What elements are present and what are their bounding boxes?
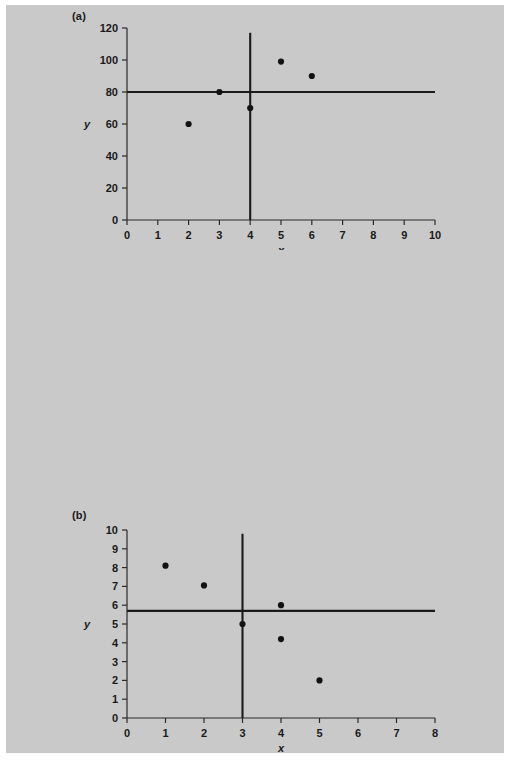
panel-c: (c) 024681012024681012xy	[0, 505, 507, 763]
data-point	[309, 73, 315, 79]
y-axis-title-a: y	[83, 118, 91, 130]
y-ticklabel-a-1: 20	[106, 182, 118, 194]
y-ticklabel-a-6: 120	[100, 22, 118, 34]
x-ticklabel-a-5: 5	[278, 229, 284, 241]
axis-spines-a	[127, 28, 435, 220]
data-point	[278, 59, 284, 65]
panel-a: (a) 012345678910020406080100120xy	[0, 0, 507, 250]
y-ticklabel-a-0: 0	[112, 214, 118, 226]
x-ticklabel-a-6: 6	[309, 229, 315, 241]
x-ticklabel-a-8: 8	[370, 229, 376, 241]
y-ticklabel-a-5: 100	[100, 54, 118, 66]
y-ticklabel-a-2: 40	[106, 150, 118, 162]
x-ticklabel-a-1: 1	[155, 229, 161, 241]
x-ticklabel-a-10: 10	[429, 229, 441, 241]
x-ticklabel-a-0: 0	[124, 229, 130, 241]
x-ticklabel-a-9: 9	[401, 229, 407, 241]
panel-b: (b) 012345678012345678910xy	[0, 250, 507, 505]
data-point	[247, 105, 253, 111]
data-point	[186, 121, 192, 127]
data-point	[216, 89, 222, 95]
x-ticklabel-a-4: 4	[247, 229, 254, 241]
x-ticklabel-a-3: 3	[216, 229, 222, 241]
page-bottom-margin	[0, 754, 507, 763]
y-ticklabel-a-4: 80	[106, 86, 118, 98]
x-ticklabel-a-7: 7	[340, 229, 346, 241]
panel-a-plot: 012345678910020406080100120xy	[0, 0, 507, 250]
y-ticklabel-a-3: 60	[106, 118, 118, 130]
figure-root: (a) 012345678910020406080100120xy (b) 01…	[0, 0, 507, 763]
x-ticklabel-a-2: 2	[186, 229, 192, 241]
